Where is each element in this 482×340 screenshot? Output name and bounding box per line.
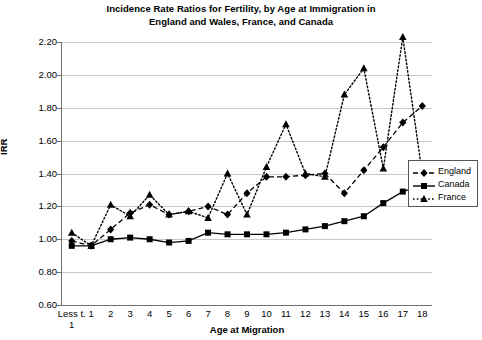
- data-point: [224, 170, 232, 177]
- legend-label: England: [436, 165, 471, 177]
- legend-item-england[interactable]: England: [412, 164, 474, 177]
- data-point: [282, 173, 289, 181]
- data-point: [380, 165, 388, 172]
- legend-item-canada[interactable]: Canada: [412, 177, 474, 190]
- legend-marker-diamond-icon: [412, 165, 436, 177]
- data-point: [68, 229, 76, 236]
- data-point: [341, 189, 348, 197]
- data-point: [361, 213, 367, 219]
- data-point: [380, 200, 386, 206]
- data-point: [322, 223, 328, 229]
- data-point: [263, 231, 269, 237]
- data-point: [205, 230, 211, 236]
- legend-label: France: [436, 191, 466, 203]
- data-point: [341, 218, 347, 224]
- data-point: [166, 240, 172, 246]
- data-point: [400, 189, 406, 195]
- data-point: [186, 238, 192, 244]
- data-point: [302, 226, 308, 232]
- legend-marker-square-icon: [412, 178, 436, 190]
- data-point: [360, 166, 367, 174]
- data-point: [146, 191, 154, 198]
- data-point: [243, 211, 251, 218]
- chart-figure: Incidence Rate Ratios for Fertility, by …: [0, 0, 482, 340]
- legend-label: Canada: [436, 178, 470, 190]
- data-point: [146, 201, 153, 209]
- series-england: [68, 102, 426, 250]
- series-france: [68, 33, 426, 249]
- data-point: [107, 201, 115, 208]
- legend-marker-triangle-icon: [412, 191, 436, 203]
- series-line: [72, 106, 423, 246]
- data-point: [399, 33, 407, 40]
- data-point: [225, 231, 231, 237]
- data-point: [360, 64, 368, 71]
- data-point: [204, 202, 211, 210]
- data-point: [147, 236, 153, 242]
- data-point: [69, 243, 75, 249]
- data-point: [244, 231, 250, 237]
- data-point: [419, 102, 426, 110]
- data-point: [108, 236, 114, 242]
- data-point: [127, 235, 133, 241]
- chart-legend: EnglandCanadaFrance: [408, 160, 478, 207]
- data-point: [283, 230, 289, 236]
- data-point: [302, 170, 310, 177]
- legend-item-france[interactable]: France: [412, 190, 474, 203]
- data-point: [341, 91, 349, 98]
- data-point: [282, 120, 290, 127]
- data-point: [263, 163, 271, 170]
